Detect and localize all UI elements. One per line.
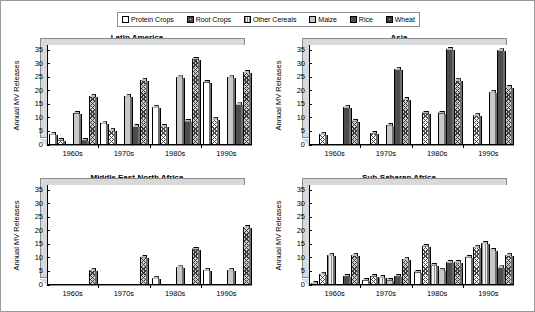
y-axis-tick: 15 (297, 100, 309, 108)
bar-groups: 1960s1970s1980s1990s (309, 45, 514, 145)
bar-side-face (511, 88, 514, 144)
legend-swatch-other-icon (244, 16, 251, 23)
x-axis-tick-label: 1970s (376, 289, 396, 298)
bar-side-face (511, 256, 514, 284)
y-axis-tick: 30 (35, 60, 47, 68)
y-axis-label-text: Annual MV Releases (12, 200, 21, 270)
x-axis-tick-label: 1960s (62, 289, 82, 298)
y-axis-tick: 35 (35, 186, 47, 194)
legend-label: Root Crops (196, 16, 231, 24)
y-axis-tick: 15 (35, 240, 47, 248)
y-axis-tick-label: 0 (301, 140, 305, 149)
bar-side-face (182, 268, 185, 284)
bar-rice (343, 107, 350, 145)
legend-label: Rice (359, 16, 373, 24)
x-axis-tick-label: 1980s (165, 149, 185, 158)
y-axis-label: Annual MV Releases (273, 47, 283, 143)
y-axis-tick-label: 20 (297, 226, 305, 235)
bar-wheat (454, 80, 461, 145)
y-axis-tick-label: 35 (35, 45, 43, 54)
x-axis-tick-mark (201, 145, 202, 148)
legend-item-rice: Rice (350, 16, 373, 24)
y-axis-tick: 20 (35, 227, 47, 235)
y-axis-tick-label: 30 (35, 199, 43, 208)
y-axis-tick: 5 (301, 267, 309, 275)
x-axis-tick-mark (98, 145, 99, 148)
panel-sub-saharan-africa: Sub-Saharan AfricaAnnual MV Releases0510… (271, 173, 527, 309)
x-axis-tick-mark (412, 145, 413, 148)
bar-side-face (325, 135, 328, 144)
y-axis-tick-label: 35 (297, 45, 305, 54)
y-axis-tick-label: 25 (35, 212, 43, 221)
x-axis-tick-label: 1990s (478, 149, 498, 158)
y-axis-tick-label: 20 (35, 86, 43, 95)
bar-protein (152, 278, 159, 285)
bar-group-1980s: 1980s (150, 185, 201, 285)
bar-side-face (249, 228, 252, 284)
bar-wheat (243, 72, 250, 145)
bar-root (370, 276, 377, 285)
y-axis-tick: 25 (297, 73, 309, 81)
plot-area: 051015202530351960s1970s1980s1990s (309, 45, 514, 145)
bar-group-1970s: 1970s (360, 45, 411, 145)
y-axis-label-text: Annual MV Releases (274, 200, 283, 270)
panel-asia: AsiaAnnual MV Releases051015202530351960… (271, 33, 527, 169)
y-axis-tick-label: 15 (297, 239, 305, 248)
bar-rice (184, 121, 191, 145)
x-axis-tick-mark (150, 145, 151, 148)
bar-groups: 1960s1970s1980s1990s (47, 185, 252, 285)
y-axis-tick-label: 0 (301, 280, 305, 289)
y-axis-tick-label: 30 (297, 59, 305, 68)
x-axis-tick-mark (463, 285, 464, 288)
y-axis-tick-label: 35 (35, 185, 43, 194)
bar-root (473, 247, 480, 285)
bar-wheat (192, 59, 199, 145)
bar-side-face (217, 120, 220, 144)
bar-group-1990s: 1990s (463, 45, 514, 145)
bar-protein (203, 82, 210, 146)
bar-rice (497, 267, 504, 285)
bar-wheat (402, 259, 409, 285)
bar-protein (49, 134, 56, 145)
bar-other (481, 243, 488, 285)
bar-protein (100, 123, 107, 145)
y-axis-tick: 10 (35, 114, 47, 122)
bar-other (430, 265, 437, 285)
x-axis-tick-mark (360, 285, 361, 288)
y-axis-tick: 30 (297, 60, 309, 68)
x-axis-tick-label: 1990s (478, 289, 498, 298)
y-axis-tick-label: 10 (35, 253, 43, 262)
bar-rice (446, 49, 453, 145)
legend-item-other: Other Cereals (244, 16, 297, 24)
panel-middle-east-north-africa: Middle East-North AfricaAnnual MV Releas… (9, 173, 265, 309)
x-axis-tick-mark (412, 285, 413, 288)
bar-side-face (376, 134, 379, 144)
y-axis-tick: 30 (297, 200, 309, 208)
x-axis-tick-label: 1990s (216, 149, 236, 158)
bar-top-face (311, 281, 318, 284)
y-axis-tick: 0 (301, 141, 309, 149)
y-axis-tick: 0 (39, 281, 47, 289)
bar-root (160, 126, 167, 145)
bar-group-1970s: 1970s (98, 185, 149, 285)
bar-group-1980s: 1980s (412, 185, 463, 285)
bar-rice (497, 50, 504, 145)
bar-maize (489, 250, 496, 285)
bar-root (57, 140, 64, 145)
legend-item-protein: Protein Crops (122, 16, 174, 24)
x-axis-tick-mark (98, 285, 99, 288)
x-axis-tick-mark (463, 145, 464, 148)
bar-groups: 1960s1970s1980s1990s (309, 185, 514, 285)
bar-group-1960s: 1960s (47, 45, 98, 145)
bar-rice (132, 126, 139, 145)
bar-group-1970s: 1970s (360, 185, 411, 285)
legend-swatch-protein-icon (122, 16, 129, 23)
bar-wheat (192, 249, 199, 285)
bar-protein (152, 107, 159, 145)
y-axis-tick: 10 (297, 254, 309, 262)
y-axis-tick: 25 (35, 213, 47, 221)
y-axis-tick-label: 10 (35, 113, 43, 122)
y-axis-tick-label: 10 (297, 253, 305, 262)
y-axis-tick-label: 15 (35, 99, 43, 108)
bar-side-face (63, 141, 66, 144)
